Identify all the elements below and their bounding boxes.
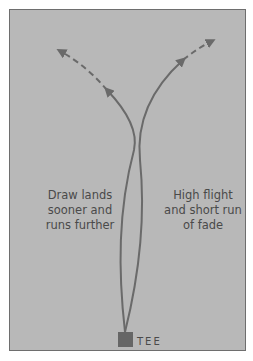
fade-description-label: High flight and short run of fade [158, 188, 248, 233]
draw-description-label: Draw lands sooner and runs further [40, 188, 120, 233]
ball-flight-diagram [0, 0, 253, 361]
tee-label: TEE [137, 336, 162, 347]
draw-extension-dashed-line [60, 51, 107, 90]
fade-extension-dashed-line [183, 41, 212, 60]
tee-marker-icon [118, 332, 133, 347]
